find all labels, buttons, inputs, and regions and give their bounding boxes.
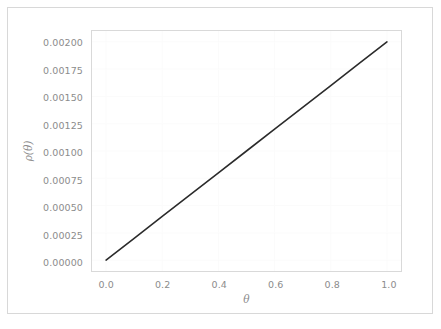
- y-tick-label: 0.00200: [43, 37, 83, 48]
- chart-figure: 0.000000.000250.000500.000750.001000.001…: [0, 0, 441, 329]
- y-axis-label: ρ(θ): [23, 141, 35, 162]
- y-tick-label: 0.00075: [43, 174, 83, 185]
- x-tick-label: 0.0: [98, 279, 113, 290]
- y-tick-label: 0.00025: [43, 229, 83, 240]
- y-tick-label: 0.00125: [43, 119, 83, 130]
- y-tick-label: 0.00175: [43, 64, 83, 75]
- data-series-layer: [92, 31, 401, 271]
- y-tick-label: 0.00100: [43, 147, 83, 158]
- y-tick-label: 0.00000: [43, 257, 83, 268]
- plot-axes-area: 0.000000.000250.000500.000750.001000.001…: [91, 30, 402, 272]
- x-tick-label: 0.4: [212, 279, 227, 290]
- y-tick-label: 0.00050: [43, 202, 83, 213]
- x-tick-label: 0.6: [268, 279, 283, 290]
- x-axis-label: θ: [243, 293, 249, 305]
- x-tick-label: 1.0: [381, 279, 396, 290]
- x-tick-label: 0.8: [325, 279, 340, 290]
- x-tick-label: 0.2: [155, 279, 170, 290]
- line-series-rho: [106, 42, 387, 260]
- y-tick-label: 0.00150: [43, 92, 83, 103]
